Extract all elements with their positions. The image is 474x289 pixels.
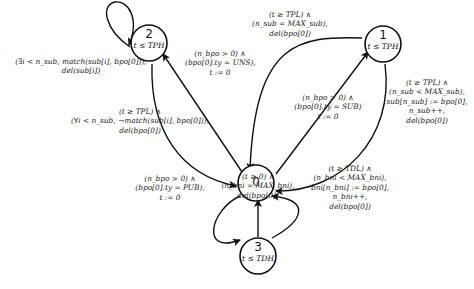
label-line: (n_bni = MAX_bni), [218,181,298,190]
label-0-to-2: (n_bpo > 0) ∧ (bpo[0].ty = UNS), t := 0 [185,49,255,77]
label-line: (∃i < n_sub, match(sub[i], bpo[0])), [6,57,156,66]
state-3-invariant: t ≤ TDH [235,254,281,263]
label-line: bni[n_bni] := bpo[0], [305,183,395,192]
label-line: (n_bpo > 0) ∧ [130,174,210,183]
state-2-label: 2 [139,27,159,41]
label-line: del(bpo[0]) [218,191,298,200]
label-line: sub[n_sub] := bpo[0], [382,97,472,106]
label-line: n_sub++, [382,106,472,115]
label-1-to-0-top: (t ≥ TPL) ∧ (n_sub = MAX_sub), del(bpo[0… [250,10,330,38]
edge-0-to-3 [214,196,240,243]
label-self-2: (∃i < n_sub, match(sub[i], bpo[0])), del… [6,57,156,76]
label-line: (t ≥ TPL) ∧ [382,78,472,87]
label-line: (t ≥ TPL) ∧ [70,107,210,116]
label-line: (t ≥ TPL) ∧ [250,10,330,19]
label-line: del(bpo[0]) [250,29,330,38]
label-line: (n_sub = MAX_sub), [250,19,330,28]
label-line: del(sub[i]) [6,66,156,75]
label-line: del(bpo[0]) [382,116,472,125]
label-line: del(bpo[0]) [305,202,395,211]
label-line: (t ≥ TDL) ∧ [305,164,395,173]
state-3-label: 3 [248,240,268,254]
label-line: (t ≥ 0) ∧ [218,172,298,181]
state-1-invariant: t ≤ TPH [360,42,406,51]
label-1-to-0-right: (t ≥ TPL) ∧ (n_sub < MAX_sub), sub[n_sub… [382,78,472,125]
label-line: (bpo[0].ty = SUB) [293,102,363,111]
label-line: del(bpo[0]) [70,126,210,135]
state-2-invariant: t ≤ TPH [126,41,172,50]
label-line: t := 0 [293,112,363,121]
label-0-to-3: (n_bpo > 0) ∧ (bpo[0].ty = PUB), t := 0 [130,174,210,202]
label-line: t := 0 [185,68,255,77]
label-line: t := 0 [130,193,210,202]
label-0-to-1: (n_bpo > 0) ∧ (bpo[0].ty = SUB) t := 0 [293,93,363,121]
label-line: (bpo[0].ty = UNS), [185,58,255,67]
label-line: (bpo[0].ty = PUB), [130,183,210,192]
label-line: (n_bni < MAX_bni), [305,173,395,182]
label-line: n_bni++, [305,192,395,201]
label-line: (n_sub < MAX_sub), [382,87,472,96]
edge-3-to-0-right [272,196,299,238]
label-line: (∀i < n_sub, ¬match(sub[i], bpo[0])), [70,116,210,125]
label-line: (n_bpo > 0) ∧ [185,49,255,58]
label-line: (n_bpo > 0) ∧ [293,93,363,102]
label-2-to-0: (t ≥ TPL) ∧ (∀i < n_sub, ¬match(sub[i], … [70,107,210,135]
state-1-label: 1 [373,28,393,42]
label-3-to-0-mid: (t ≥ 0) ∧ (n_bni = MAX_bni), del(bpo[0]) [218,172,298,200]
label-3-to-0-right: (t ≥ TDL) ∧ (n_bni < MAX_bni), bni[n_bni… [305,164,395,211]
